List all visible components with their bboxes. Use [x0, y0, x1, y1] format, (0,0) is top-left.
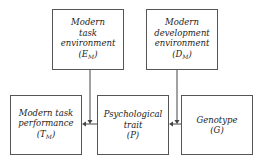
node-label-line: Psychological [104, 109, 163, 120]
node-label-line: environment [61, 38, 116, 49]
node-symbol: (P) [127, 130, 139, 141]
node-label-line: environment [155, 38, 210, 49]
modern-development-environment-node: Modern development environment (DM) [146, 9, 218, 70]
node-label-line: Modern [165, 17, 199, 28]
node-label-line: Modern task [19, 108, 74, 119]
modern-task-performance-node: Modern task performance (TM) [10, 95, 82, 155]
node-symbol: (TM) [37, 129, 55, 143]
psychological-trait-node: Psychological trait (P) [97, 95, 169, 155]
node-symbol: (DM) [172, 49, 192, 63]
node-label-line: performance [18, 118, 73, 129]
node-label-line: trait [124, 120, 143, 131]
modern-task-environment-node: Modern task environment (EM) [52, 9, 124, 70]
genotype-node: Genotype (G) [181, 95, 253, 155]
node-symbol: (G) [210, 125, 223, 136]
node-label-line: development [154, 28, 210, 39]
node-label-line: Modern [71, 17, 105, 28]
node-symbol: (EM) [78, 49, 97, 63]
node-label-line: task [79, 28, 97, 39]
node-label-line: Genotype [196, 115, 237, 126]
